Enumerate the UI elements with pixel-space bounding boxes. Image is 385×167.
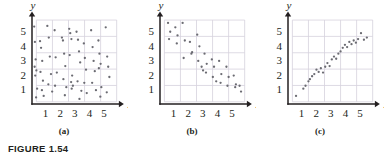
panel-label-b: (b) xyxy=(128,126,256,136)
axis-titles-b: xy xyxy=(158,0,256,110)
axis-titles-c: xy xyxy=(286,0,384,110)
svg-text:4: 4 xyxy=(343,107,349,119)
scatter-plot-a-svg: 1234512345 xy xyxy=(0,0,128,126)
svg-text:5: 5 xyxy=(101,107,107,119)
svg-text:2: 2 xyxy=(57,107,63,119)
svg-text:5: 5 xyxy=(229,107,235,119)
panel-label-a: (a) xyxy=(0,126,128,136)
scatter-panel-c: 1234512345 xy (c) xyxy=(256,0,384,145)
svg-text:1: 1 xyxy=(299,107,305,119)
svg-text:y: y xyxy=(286,0,292,11)
svg-text:2: 2 xyxy=(21,69,27,81)
svg-text:2: 2 xyxy=(277,69,283,81)
scatter-panel-b: 1234512345 xy (b) xyxy=(128,0,256,145)
gridlines-b xyxy=(164,20,244,102)
svg-text:5: 5 xyxy=(277,25,283,37)
svg-text:3: 3 xyxy=(21,54,27,66)
svg-text:3: 3 xyxy=(200,107,206,119)
svg-text:x: x xyxy=(383,98,384,110)
svg-text:1: 1 xyxy=(43,107,49,119)
svg-text:5: 5 xyxy=(149,25,155,37)
svg-text:4: 4 xyxy=(149,40,155,52)
svg-text:1: 1 xyxy=(277,83,283,95)
axes-b xyxy=(157,11,252,107)
svg-text:2: 2 xyxy=(149,69,155,81)
svg-text:5: 5 xyxy=(21,25,27,37)
data-points-c xyxy=(295,32,368,97)
svg-text:3: 3 xyxy=(328,107,334,119)
svg-text:4: 4 xyxy=(87,107,93,119)
svg-text:4: 4 xyxy=(215,107,221,119)
svg-text:1: 1 xyxy=(171,107,177,119)
svg-text:3: 3 xyxy=(72,107,78,119)
svg-text:2: 2 xyxy=(185,107,191,119)
svg-text:1: 1 xyxy=(149,83,155,95)
scatter-plot-b-svg: 1234512345 xy xyxy=(128,0,256,126)
figure-1-54: 1234512345 xy (a) 1234512345 xy (b) 1234… xyxy=(0,0,385,167)
svg-text:3: 3 xyxy=(277,54,283,66)
svg-text:2: 2 xyxy=(313,107,319,119)
figure-caption: FIGURE 1.54 xyxy=(8,143,68,154)
svg-text:1: 1 xyxy=(21,83,27,95)
svg-text:3: 3 xyxy=(149,54,155,66)
svg-text:y: y xyxy=(158,0,164,11)
svg-text:4: 4 xyxy=(21,40,27,52)
scatter-plot-c-svg: 1234512345 xy xyxy=(256,0,384,126)
svg-text:y: y xyxy=(30,0,36,11)
scatter-panel-a: 1234512345 xy (a) xyxy=(0,0,128,145)
axis-titles-a: xy xyxy=(30,0,128,110)
axes-a xyxy=(29,11,124,107)
tick-labels-c: 1234512345 xyxy=(277,25,364,119)
panel-label-c: (c) xyxy=(256,126,384,136)
data-points-b xyxy=(167,22,242,93)
tick-labels-b: 1234512345 xyxy=(149,25,236,119)
svg-text:4: 4 xyxy=(277,40,283,52)
svg-text:5: 5 xyxy=(357,107,363,119)
